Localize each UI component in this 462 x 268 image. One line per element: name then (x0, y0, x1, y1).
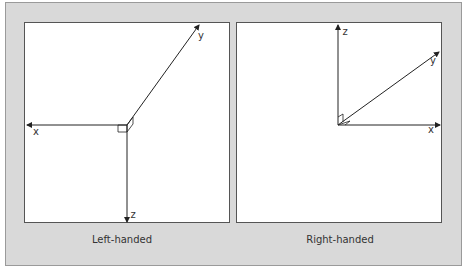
left-y-label: y (198, 30, 204, 41)
right-y-label: y (430, 55, 436, 66)
right-handed-panel (237, 23, 442, 223)
right-panel-box (237, 23, 442, 223)
coordinate-systems-diagram (0, 0, 462, 268)
right-handed-caption: Right-handed (306, 234, 374, 245)
left-z-label: z (130, 209, 135, 220)
right-x-label: x (428, 124, 434, 135)
left-handed-caption: Left-handed (92, 234, 152, 245)
right-z-label: z (342, 26, 347, 37)
left-handed-panel (25, 23, 230, 223)
left-x-label: x (33, 126, 39, 137)
figure (0, 0, 462, 268)
